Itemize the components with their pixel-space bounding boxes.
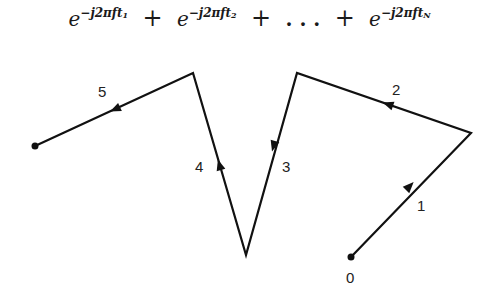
vector-label-2: 2 [392,81,400,98]
origin-dot [348,254,355,261]
endpoint-dot [32,143,39,150]
vector-label-4: 4 [195,158,203,175]
origin-label: 0 [346,269,354,286]
arrowheads [108,98,417,193]
vector-label-3: 3 [282,158,290,175]
vector-chain [35,73,471,257]
vector-label-1: 1 [417,197,425,214]
phasor-path [35,73,471,257]
arrow-icon-2 [381,98,394,110]
phasor-diagram: 0 1 2 3 4 5 [0,0,499,295]
vector-label-5: 5 [98,83,106,100]
arrow-icon-5 [108,103,122,116]
